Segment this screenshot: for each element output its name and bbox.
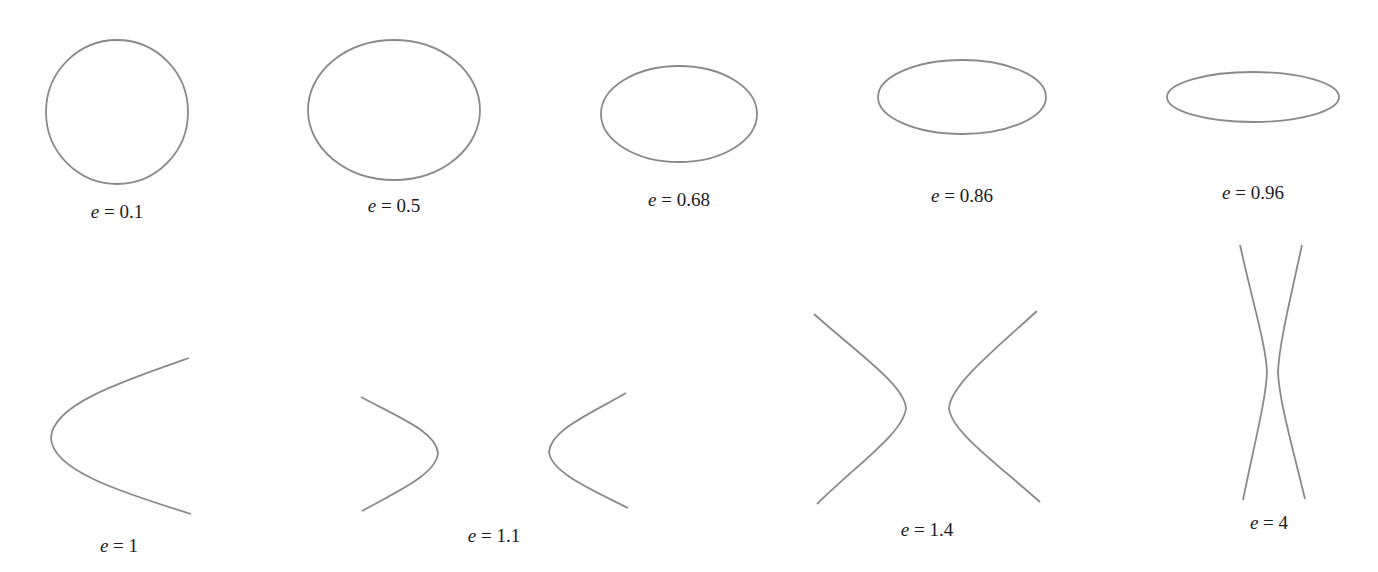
label-e-4: e = 4 (1250, 512, 1288, 534)
label-e-1-4: e = 1.4 (901, 519, 953, 541)
label-value: 0.68 (677, 189, 710, 210)
ellipse-e-0-5 (308, 40, 480, 180)
hyperbola-e-1-1-left-branch (361, 397, 438, 511)
label-e-0-68: e = 0.68 (648, 189, 710, 211)
ellipse-e-0-96 (1167, 72, 1339, 122)
ellipse-e-0-1 (46, 40, 188, 184)
label-value: 1.1 (496, 525, 520, 546)
conics-diagram (0, 0, 1378, 572)
label-equals: = (108, 535, 128, 556)
label-value: 0.5 (396, 195, 420, 216)
label-value: 1 (129, 535, 139, 556)
hyperbola-e-1-4-left-branch (814, 314, 906, 504)
label-e-1: e = 1 (100, 535, 138, 557)
hyperbola-e-1-1-right-branch (549, 393, 628, 508)
label-value: 4 (1279, 512, 1289, 533)
label-equals: = (939, 185, 959, 206)
hyperbola-e-1-4-right-branch (949, 311, 1040, 502)
label-value: 0.96 (1251, 182, 1284, 203)
label-equals: = (376, 195, 396, 216)
label-equals: = (909, 519, 929, 540)
label-equals: = (1258, 512, 1278, 533)
label-e-0-1: e = 0.1 (91, 201, 143, 223)
label-e-0-5: e = 0.5 (368, 195, 420, 217)
label-value: 0.86 (960, 185, 993, 206)
label-equals: = (476, 525, 496, 546)
label-value: 0.1 (119, 201, 143, 222)
label-e-1-1: e = 1.1 (468, 525, 520, 547)
label-e-0-96: e = 0.96 (1222, 182, 1284, 204)
hyperbola-e-4-left-branch (1240, 245, 1267, 500)
label-equals: = (99, 201, 119, 222)
label-value: 1.4 (929, 519, 953, 540)
hyperbola-e-4-right-branch (1278, 245, 1305, 499)
ellipse-e-0-86 (878, 60, 1046, 134)
label-equals: = (1230, 182, 1250, 203)
ellipse-e-0-68 (601, 66, 757, 162)
label-e-0-86: e = 0.86 (931, 185, 993, 207)
label-equals: = (656, 189, 676, 210)
parabola-e-1 (51, 358, 191, 514)
